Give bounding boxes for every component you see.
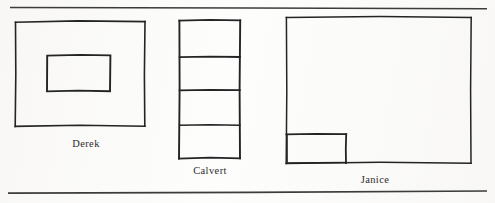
derek-inner-rectangle [47,55,110,92]
derek-outer-left [15,22,16,126]
figure-label-calvert: Calvert [179,165,241,177]
figure-calvert [179,20,240,159]
top-rule [10,8,487,9]
janice-outer-right [471,17,472,163]
figure-label-janice: Janice [345,174,405,186]
derek-outer-right [144,22,145,127]
calvert-outer-top [179,20,240,21]
derek-outer-top [16,21,146,22]
calvert-divider-1 [180,57,240,58]
scanned-page: Derek Calvert Janice [0,0,495,203]
janice-corner-top [286,134,346,135]
ink-drawing-layer [0,0,495,203]
calvert-divider-3 [180,125,240,126]
derek-outer-bottom [15,125,145,126]
bottom-rule [8,191,487,193]
figure-derek [15,21,145,127]
calvert-outer-bottom [179,158,240,159]
janice-outer-top [286,17,471,18]
figure-janice [286,17,471,164]
calvert-divider-2 [180,90,240,91]
figure-label-derek: Derek [56,138,116,150]
